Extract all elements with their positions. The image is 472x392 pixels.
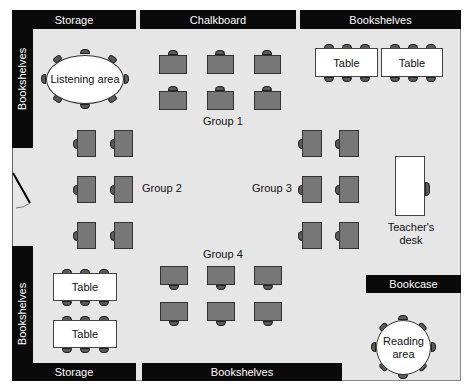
chalkboard: Chalkboard xyxy=(140,10,296,29)
reading-area: Reading area xyxy=(376,320,431,375)
teachers-desk-label: Teacher's desk xyxy=(386,221,436,247)
student-desk xyxy=(339,130,359,157)
student-desk xyxy=(254,266,282,285)
chair-icon xyxy=(425,182,430,196)
student-desk xyxy=(160,266,188,285)
student-desk xyxy=(254,55,281,74)
table-bottom-2: Table xyxy=(53,320,117,348)
reading-area-label-line1: Reading xyxy=(383,335,424,348)
student-desk xyxy=(114,130,133,157)
table-top-1: Table xyxy=(315,48,378,77)
teachers-desk xyxy=(395,156,425,216)
table-label: Table xyxy=(72,281,98,293)
chair-icon xyxy=(80,49,90,54)
group-4-label: Group 4 xyxy=(203,248,243,260)
storage-top-label: Storage xyxy=(55,14,94,26)
student-desk xyxy=(302,176,322,203)
student-desk xyxy=(302,130,322,157)
bookcase-label: Bookcase xyxy=(389,278,437,290)
bookshelves-top: Bookshelves xyxy=(300,10,461,29)
bookcase: Bookcase xyxy=(366,275,461,293)
student-desk xyxy=(339,222,359,249)
bookshelves-bottom: Bookshelves xyxy=(142,363,342,381)
teachers-desk-label-line2: desk xyxy=(386,234,436,247)
student-desk xyxy=(159,91,187,110)
reading-area-label-line2: area xyxy=(392,348,414,361)
student-desk xyxy=(114,222,133,249)
bookshelves-left-top-label: Bookshelves xyxy=(17,48,29,110)
group-1-label: Group 1 xyxy=(203,115,243,127)
teachers-desk-label-line1: Teacher's xyxy=(386,221,436,234)
student-desk xyxy=(77,176,96,203)
bookshelves-left-bottom-label: Bookshelves xyxy=(17,282,29,344)
group-3-label: Group 3 xyxy=(252,182,292,194)
student-desk xyxy=(207,91,234,110)
student-desk xyxy=(207,302,235,321)
student-desk xyxy=(159,55,187,74)
student-desk xyxy=(207,266,235,285)
student-desk xyxy=(77,130,96,157)
bookshelves-left-bottom: Bookshelves xyxy=(12,246,33,381)
listening-area-label: Listening area xyxy=(50,73,119,86)
group-2-label: Group 2 xyxy=(142,182,182,194)
storage-bottom-label: Storage xyxy=(55,366,94,378)
table-label: Table xyxy=(399,57,425,69)
bookshelves-left-top: Bookshelves xyxy=(12,10,33,148)
student-desk xyxy=(302,222,322,249)
table-label: Table xyxy=(333,57,359,69)
bookshelves-top-label: Bookshelves xyxy=(349,14,411,26)
storage-bottom: Storage xyxy=(12,363,136,381)
door-icon xyxy=(10,170,35,210)
table-bottom-1: Table xyxy=(53,273,117,301)
student-desk xyxy=(160,302,188,321)
student-desk xyxy=(254,302,282,321)
listening-area: Listening area xyxy=(46,55,124,104)
bookshelves-bottom-label: Bookshelves xyxy=(211,366,273,378)
table-top-2: Table xyxy=(381,48,443,77)
chalkboard-label: Chalkboard xyxy=(190,14,246,26)
student-desk xyxy=(339,176,359,203)
student-desk xyxy=(207,55,234,74)
table-label: Table xyxy=(72,328,98,340)
student-desk xyxy=(114,176,133,203)
student-desk xyxy=(77,222,96,249)
student-desk xyxy=(254,91,281,110)
